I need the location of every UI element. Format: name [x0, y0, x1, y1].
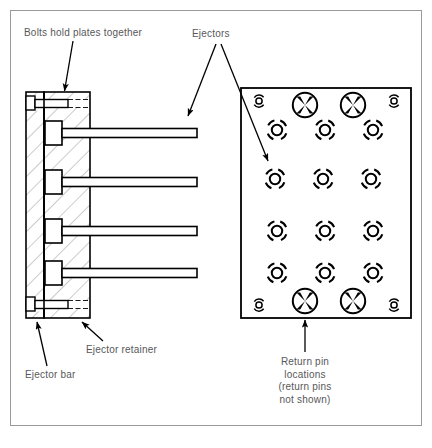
return-pin-caption: Return pin locations (return pins not sh…: [245, 356, 365, 406]
return-pin-caption-line-3: (return pins: [245, 381, 365, 394]
bolts-leader-arrow: [65, 41, 74, 91]
ejector-retainer-label: Ejector retainer: [86, 344, 157, 357]
cross-section-group: [26, 92, 198, 318]
return-pin-caption-line-1: Return pin: [245, 356, 365, 369]
bolts-label: Bolts hold plates together: [24, 27, 142, 40]
return-pin-caption-line-2: locations: [245, 369, 365, 382]
ejectors-label: Ejectors: [192, 28, 230, 41]
return-pin-bottom-right: [341, 289, 365, 313]
ejector-plate-outline: [241, 88, 411, 318]
figure-container: Bolts hold plates together Ejectors Ejec…: [0, 0, 432, 448]
return-pin-top-right: [341, 93, 365, 117]
ejector-bar-leader-arrow: [37, 322, 47, 366]
ejector-bar-body: [26, 92, 44, 318]
ejector-bar-label: Ejector bar: [25, 369, 76, 382]
return-pin-bottom-left: [293, 289, 317, 313]
return-pin-top-left: [293, 93, 317, 117]
plan-view-group: [241, 88, 411, 318]
ejectors-leader-arrow-left: [188, 44, 216, 116]
ejector-retainer-leader-arrow: [82, 322, 103, 341]
return-pin-caption-line-4: not shown): [245, 394, 365, 407]
